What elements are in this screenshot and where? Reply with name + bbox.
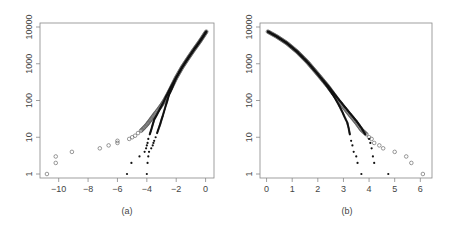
- panel-label: (a): [122, 206, 133, 216]
- x-tick-label: 1: [290, 184, 295, 194]
- x-tick-label: −6: [112, 184, 122, 194]
- figure: −10−8−6−4−20110100100010000(a)0123456110…: [0, 0, 452, 227]
- panel-a: −10−8−6−4−20110100100010000(a): [24, 14, 214, 216]
- y-tick-label: 1: [244, 171, 254, 176]
- series-filled-dots-2: [267, 30, 390, 175]
- y-tick-label: 1000: [244, 54, 254, 74]
- x-tick-label: 4: [367, 184, 372, 194]
- x-tick-label: −10: [51, 184, 66, 194]
- x-tick-label: 5: [392, 184, 397, 194]
- y-tick-label: 1: [24, 171, 34, 176]
- panel-label: (b): [342, 206, 353, 216]
- x-tick-label: 0: [264, 184, 269, 194]
- x-tick-label: 0: [203, 184, 208, 194]
- panel-b: 0123456110100100010000(b): [244, 14, 432, 216]
- y-tick-label: 1000: [24, 54, 34, 74]
- y-tick-label: 10: [24, 132, 34, 142]
- series-filled-dots-2: [146, 30, 208, 175]
- x-tick-label: 3: [341, 184, 346, 194]
- y-tick-label: 100: [24, 93, 34, 108]
- y-tick-label: 10000: [244, 14, 254, 39]
- x-tick-label: −2: [171, 184, 181, 194]
- series-open-circles: [266, 30, 425, 176]
- x-tick-label: −8: [83, 184, 93, 194]
- series-open-circles: [45, 30, 208, 176]
- x-tick-label: 2: [315, 184, 320, 194]
- series-filled-dots-1: [267, 30, 363, 175]
- plot-frame: [40, 23, 214, 178]
- x-tick-label: 6: [418, 184, 423, 194]
- x-tick-label: −4: [142, 184, 152, 194]
- y-tick-label: 10000: [24, 14, 34, 39]
- y-tick-label: 100: [244, 93, 254, 108]
- y-tick-label: 10: [244, 132, 254, 142]
